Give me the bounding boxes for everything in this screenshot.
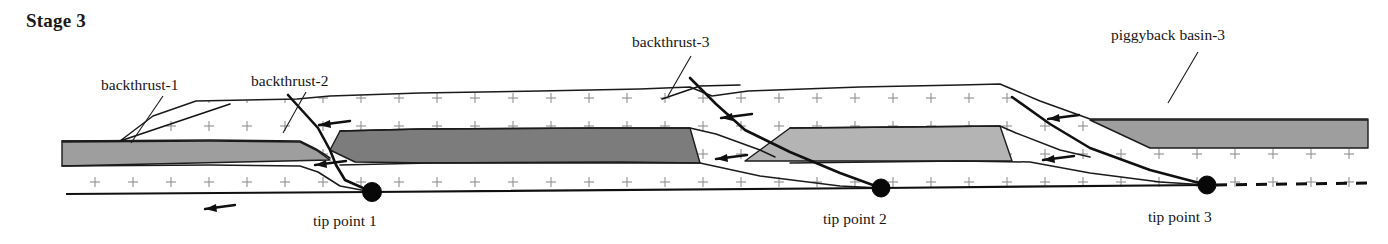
- gray-unit-2: [330, 128, 700, 163]
- backthrust-3-label: backthrust-3: [632, 33, 710, 50]
- tip-point-1-label: tip point 1: [313, 212, 377, 229]
- tip-point-2-label: tip point 2: [823, 210, 887, 227]
- tip-point-3-label: tip point 3: [1148, 208, 1212, 225]
- tip-point-1: [363, 183, 382, 202]
- backthrust-2-label: backthrust-2: [251, 72, 328, 89]
- gray-unit-3: [745, 126, 1012, 161]
- tip-point-3: [1198, 176, 1216, 194]
- piggyback-basin-3-label: piggyback basin-3: [1111, 26, 1225, 43]
- tip-point-2: [872, 179, 890, 197]
- backthrust-1-label: backthrust-1: [101, 76, 178, 93]
- cross-section-figure: tip point 1tip point 2tip point 3 backth…: [0, 0, 1388, 244]
- page-title: Stage 3: [26, 10, 86, 31]
